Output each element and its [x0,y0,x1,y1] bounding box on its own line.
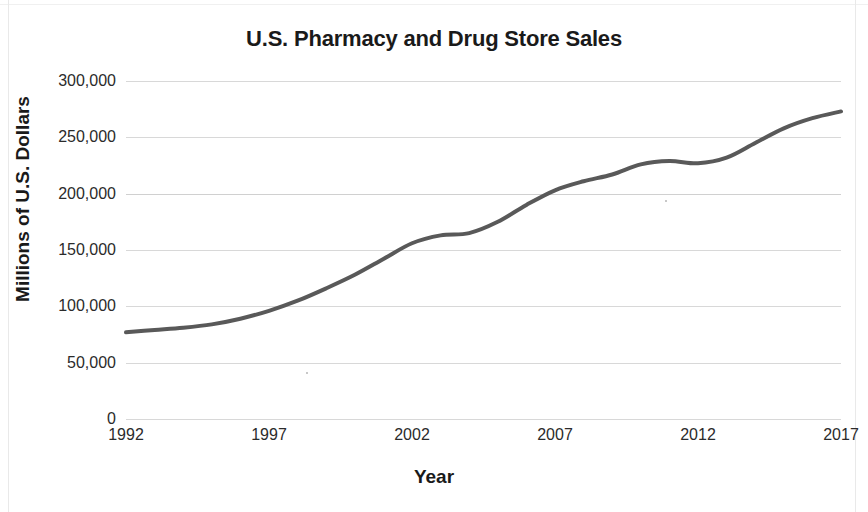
y-axis-tick-label: 250,000 [6,128,116,146]
y-axis-tick-label: 150,000 [6,241,116,259]
y-axis-tick-label: 50,000 [6,354,116,372]
x-axis-tick-label: 2017 [823,426,859,444]
x-axis-title: Year [0,466,868,488]
gridline [126,419,841,420]
x-axis-tick-label: 2012 [680,426,716,444]
x-axis-tick-label: 1997 [251,426,287,444]
series-line-path [126,111,841,332]
plot-area [126,81,841,419]
y-axis-tick-labels: 050,000100,000150,000200,000250,000300,0… [0,81,116,419]
y-axis-tick-label: 200,000 [6,185,116,203]
x-axis-tick-label: 1992 [108,426,144,444]
chart-title: U.S. Pharmacy and Drug Store Sales [0,26,868,52]
scan-artifact-speck [665,200,667,202]
scan-artifact-speck [306,372,308,374]
y-axis-tick-label: 0 [6,410,116,428]
series-line-chart [126,81,841,419]
x-axis-tick-label: 2002 [394,426,430,444]
y-axis-tick-label: 100,000 [6,297,116,315]
y-axis-tick-label: 300,000 [6,72,116,90]
frame-top-border [0,4,868,5]
chart-container: U.S. Pharmacy and Drug Store Sales Milli… [0,0,868,512]
x-axis-tick-label: 2007 [537,426,573,444]
